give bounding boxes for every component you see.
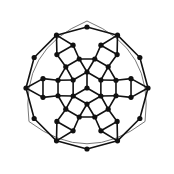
graph-node: [92, 56, 97, 61]
graph-node: [84, 85, 89, 90]
graph-node: [54, 119, 59, 124]
graph-node: [55, 93, 60, 98]
graph-edge: [101, 35, 118, 45]
graph-node: [84, 146, 89, 151]
graph-node: [77, 114, 82, 119]
graph-node: [40, 76, 45, 81]
graph-node: [115, 138, 120, 143]
graph-node: [54, 138, 59, 143]
graph-node: [84, 24, 89, 29]
graph-edge: [101, 45, 117, 54]
graph-node: [98, 77, 103, 82]
graph-node: [137, 116, 142, 121]
graph-node: [32, 116, 37, 121]
graph-edge: [57, 35, 74, 45]
graph-node: [55, 78, 60, 83]
graph-node: [54, 33, 59, 38]
graph-node: [32, 55, 37, 60]
graph-node: [98, 43, 103, 48]
graph-node: [115, 119, 120, 124]
graph-node: [115, 33, 120, 38]
graph-node: [98, 93, 103, 98]
graph-node: [84, 69, 89, 74]
graph-node: [40, 95, 45, 100]
outer-boundary-arc: [29, 122, 145, 144]
graph-node: [113, 78, 118, 83]
graph-edge: [57, 131, 74, 141]
graph-node: [63, 107, 68, 112]
graph-canvas: [0, 0, 174, 174]
graph-node: [145, 85, 150, 90]
graph-node: [98, 128, 103, 133]
graph-edge: [118, 35, 140, 57]
graph-node: [92, 114, 97, 119]
graph-node: [70, 128, 75, 133]
graph-node: [63, 64, 68, 69]
graph-edge: [101, 131, 118, 141]
graph-edge: [57, 121, 73, 130]
graph-node: [106, 64, 111, 69]
graph-node: [84, 101, 89, 106]
graph-edge: [34, 119, 56, 141]
graph-edge: [101, 121, 117, 130]
graph-node: [128, 95, 133, 100]
graph-node: [71, 93, 76, 98]
graph-node: [106, 107, 111, 112]
graph-node: [54, 52, 59, 57]
graph-node: [113, 93, 118, 98]
graph-edge: [57, 45, 73, 54]
graph-figure: Concentric ring graph diagram: [0, 0, 174, 174]
graph-node: [23, 85, 28, 90]
graph-edge: [118, 119, 140, 141]
graph-node: [70, 43, 75, 48]
graph-node: [115, 52, 120, 57]
graph-node: [71, 77, 76, 82]
graph-edge: [34, 35, 56, 57]
graph-node: [128, 76, 133, 81]
graph-node: [137, 55, 142, 60]
graph-node: [77, 56, 82, 61]
